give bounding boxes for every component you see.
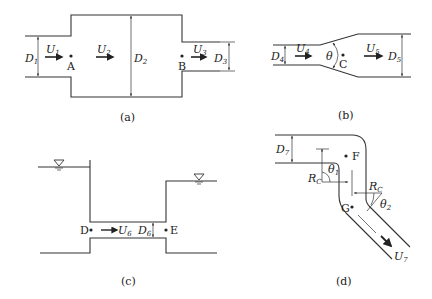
water-surface-icon-right	[194, 174, 204, 184]
angle-arc-theta	[333, 43, 338, 68]
label-point-a: A	[66, 60, 76, 73]
label-point-e: E	[170, 224, 178, 237]
label-u3: U3	[193, 43, 207, 57]
label-theta: θ	[326, 50, 333, 63]
pipe-c-bottom-wall	[40, 238, 217, 253]
label-d5: D5	[387, 50, 402, 64]
caption-c: (c)	[121, 275, 136, 288]
panel-d-pipe-bend: D7 RC θ1 F RC θ2 G U7 (d)	[275, 135, 410, 288]
point-f-dot	[344, 154, 347, 157]
point-b-dot	[180, 54, 183, 57]
label-d7: D7	[275, 143, 290, 157]
label-point-c: C	[339, 58, 347, 71]
point-d-dot	[89, 228, 92, 231]
label-d6: D6	[137, 224, 152, 238]
fluid-mechanics-figure: D1 U1 A U2 D2 B U3 D3 (a) D4 U	[0, 0, 432, 299]
point-a-dot	[69, 54, 72, 57]
caption-b: (b)	[338, 109, 354, 122]
label-u1: U1	[46, 43, 60, 57]
panel-b-gradual-expansion: D4 U4 θ C U5 D5 (b)	[270, 34, 411, 122]
pipe-a-top-wall	[25, 15, 220, 42]
water-surface-icon-left	[54, 160, 64, 170]
label-rc1: RC	[307, 172, 322, 186]
label-u5: U5	[366, 42, 380, 56]
label-point-g: G	[341, 202, 350, 215]
label-u4: U4	[296, 42, 310, 56]
label-d2: D2	[133, 52, 148, 66]
label-u2: U2	[97, 43, 111, 57]
caption-a: (a)	[120, 111, 135, 124]
label-point-f: F	[352, 150, 360, 163]
label-point-b: B	[178, 60, 186, 73]
pipe-b-top-wall	[273, 34, 411, 45]
point-e-dot	[164, 228, 167, 231]
label-d1: D1	[24, 52, 38, 66]
pipe-d-outer-wall	[275, 135, 410, 247]
pipe-d-guide-line	[358, 215, 376, 233]
label-rc2: RC	[368, 180, 383, 194]
pipe-a-bottom-wall	[25, 71, 220, 97]
label-point-d: D	[80, 224, 89, 237]
label-d3: D3	[213, 52, 228, 66]
label-u7: U7	[394, 250, 408, 264]
caption-d: (d)	[336, 275, 352, 288]
label-u6: U6	[118, 224, 132, 238]
label-theta1: θ1	[328, 163, 339, 177]
flow-arrow-u7	[381, 236, 391, 246]
label-theta2: θ2	[380, 198, 392, 212]
pipe-c-top-wall	[90, 160, 217, 222]
label-d4: D4	[270, 50, 284, 64]
point-g-dot	[350, 205, 353, 208]
point-c-dot	[341, 53, 344, 56]
panel-c-reservoir-pipe: D U6 D6 E (c)	[38, 160, 217, 288]
panel-a-sudden-expansion-contraction: D1 U1 A U2 D2 B U3 D3 (a)	[24, 15, 235, 124]
